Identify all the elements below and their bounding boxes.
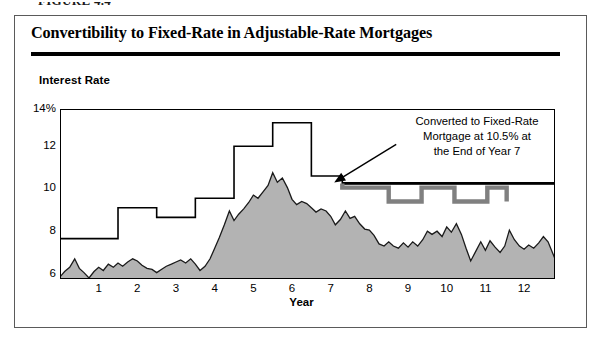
annotation-arrowhead-icon <box>334 173 346 183</box>
x-tick-label: 7 <box>320 283 342 295</box>
x-tick-label: 5 <box>242 283 264 295</box>
y-tick-label: 8 <box>50 225 56 237</box>
index-rate-area-fill <box>60 173 555 279</box>
x-tick-label: 10 <box>436 283 458 295</box>
x-tick-label: 8 <box>358 283 380 295</box>
y-tick-label: 6 <box>50 268 56 280</box>
conversion-annotation: Converted to Fixed-Rate Mortgage at 10.5… <box>388 114 566 159</box>
x-tick-label: 9 <box>397 283 419 295</box>
y-tick-label: 14% <box>33 103 56 115</box>
x-axis-title: Year <box>0 296 603 308</box>
title-divider <box>31 52 560 56</box>
index-rate-area-series <box>60 173 555 279</box>
x-tick-label: 4 <box>204 283 226 295</box>
x-tick-label: 2 <box>126 283 148 295</box>
unconverted-cap-step-line <box>342 183 506 201</box>
annotation-line-3: the End of Year 7 <box>388 144 566 159</box>
x-tick-label: 6 <box>281 283 303 295</box>
chart-title: Convertibility to Fixed-Rate in Adjustab… <box>31 24 561 43</box>
y-tick-label: 12 <box>43 140 56 152</box>
y-tick-label: 10 <box>43 182 56 194</box>
x-tick-label: 11 <box>474 283 496 295</box>
x-tick-label: 3 <box>165 283 187 295</box>
annotation-line-1: Converted to Fixed-Rate <box>388 114 566 129</box>
annotation-line-2: Mortgage at 10.5% at <box>388 129 566 144</box>
x-tick-label: 12 <box>513 283 535 295</box>
x-tick-label: 1 <box>88 283 110 295</box>
